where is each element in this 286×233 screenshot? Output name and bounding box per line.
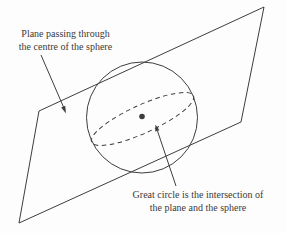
plane-label-line1: Plane passing through [0,27,131,40]
plane-arrow-line [41,55,64,107]
great-circle-label-line1: Great circle is the intersection of [112,188,284,201]
diagram-canvas: Plane passing through the centre of the … [0,0,286,233]
great-circle-arrowhead-icon [155,125,159,132]
plane-label: Plane passing through the centre of the … [0,27,131,53]
great-circle-annotation-arrow [155,125,176,187]
plane-label-line2: the centre of the sphere [0,40,131,53]
sphere-centre-dot [139,114,145,120]
great-circle-label-line2: the plane and the sphere [112,201,284,214]
great-circle-label: Great circle is the intersection of the … [112,188,284,214]
plane-arrowhead-icon [61,106,66,114]
